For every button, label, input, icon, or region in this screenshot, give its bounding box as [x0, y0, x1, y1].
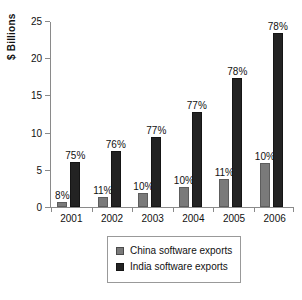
- y-axis-tick-label: 20: [16, 54, 42, 64]
- legend-item-china[interactable]: China software exports: [116, 243, 232, 259]
- bar-value-label: 10%: [133, 181, 153, 192]
- y-axis-tick: [45, 58, 50, 59]
- bar-china[interactable]: 10%: [260, 163, 270, 207]
- bar-value-label: 78%: [227, 66, 247, 77]
- legend-item-india[interactable]: India software exports: [116, 259, 232, 275]
- bar-group: 10%77%: [132, 22, 173, 207]
- bar-india[interactable]: 76%: [111, 151, 121, 207]
- x-axis-tick-label: 2001: [51, 212, 92, 226]
- x-axis-tick-label: 2002: [92, 212, 133, 226]
- bar-groups: 8%75%11%76%10%77%10%77%11%78%10%78%: [51, 22, 294, 207]
- x-axis-tick-label: 2003: [132, 212, 173, 226]
- y-axis-tick: [45, 21, 50, 22]
- bar-india[interactable]: 77%: [192, 112, 202, 207]
- bar-value-label: 75%: [65, 150, 85, 161]
- y-axis-tick-label: 10: [16, 129, 42, 139]
- bar-chart: $ Billions 0510152025 8%75%11%76%10%77%1…: [0, 0, 302, 300]
- bar-group: 8%75%: [51, 22, 92, 207]
- bar-value-label: 78%: [268, 21, 288, 32]
- bar-india[interactable]: 78%: [273, 33, 283, 207]
- bar-value-label: 77%: [146, 125, 166, 136]
- x-axis-tick-label: 2004: [173, 212, 214, 226]
- plot-area: 0510152025 8%75%11%76%10%77%10%77%11%78%…: [50, 22, 294, 208]
- bar-value-label: 10%: [174, 175, 194, 186]
- x-axis-labels: 200120022003200420052006: [51, 212, 295, 226]
- y-axis-tick-label: 25: [16, 17, 42, 27]
- bar-value-label: 77%: [187, 100, 207, 111]
- x-axis-tick-label: 2006: [254, 212, 295, 226]
- y-axis-tick: [45, 133, 50, 134]
- bar-group: 11%78%: [213, 22, 254, 207]
- y-axis-tick-label: 0: [16, 203, 42, 213]
- bar-value-label: 76%: [106, 139, 126, 150]
- bar-group: 11%76%: [92, 22, 133, 207]
- y-axis-tick: [45, 207, 50, 208]
- bar-china[interactable]: 11%: [98, 197, 108, 207]
- y-axis-tick: [45, 170, 50, 171]
- bar-india[interactable]: 75%: [70, 162, 80, 207]
- y-axis-tick: [45, 95, 50, 96]
- y-axis-title: $ Billions: [6, 0, 22, 60]
- legend-label-india: India software exports: [130, 261, 228, 273]
- legend-swatch-india-icon: [116, 263, 124, 271]
- bar-china[interactable]: 11%: [219, 179, 229, 207]
- bar-china[interactable]: 8%: [57, 202, 67, 207]
- bar-value-label: 11%: [215, 167, 234, 178]
- bar-value-label: 10%: [255, 151, 275, 162]
- y-axis-tick-label: 15: [16, 91, 42, 101]
- y-axis-tick-label: 5: [16, 166, 42, 176]
- legend-label-china: China software exports: [130, 245, 232, 257]
- bar-value-label: 11%: [93, 185, 112, 196]
- bar-india[interactable]: 77%: [151, 137, 161, 207]
- bar-india[interactable]: 78%: [232, 78, 242, 208]
- bar-group: 10%77%: [173, 22, 214, 207]
- bar-china[interactable]: 10%: [179, 187, 189, 207]
- bar-group: 10%78%: [254, 22, 295, 207]
- legend-swatch-china-icon: [116, 247, 124, 255]
- bar-china[interactable]: 10%: [138, 193, 148, 207]
- x-axis-tick-label: 2005: [214, 212, 255, 226]
- bar-value-label: 8%: [55, 190, 69, 201]
- chart-legend: China software exports India software ex…: [107, 236, 241, 283]
